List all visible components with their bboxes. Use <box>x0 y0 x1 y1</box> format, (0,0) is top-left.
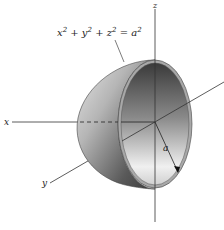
y-axis-label: y <box>41 178 48 188</box>
x-axis-label: x <box>4 117 9 127</box>
equation-leader-line <box>115 40 124 62</box>
sphere-equation: x2 + y2 + z2 = a2 <box>57 26 142 38</box>
z-axis-label: z <box>152 1 158 10</box>
radius-label: a <box>163 143 168 153</box>
hemisphere-figure: z x y a x2 + y2 + z2 = a2 <box>0 0 224 230</box>
